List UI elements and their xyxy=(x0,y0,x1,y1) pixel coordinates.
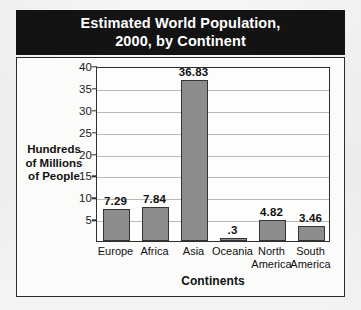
x-tick-label: Asia xyxy=(183,245,204,258)
bar-value-label: .3 xyxy=(228,224,238,236)
x-tick-label: North America xyxy=(251,245,291,270)
bar xyxy=(181,80,208,241)
bar xyxy=(220,238,247,241)
x-axis-title: Continents xyxy=(96,274,330,288)
bar xyxy=(103,209,130,241)
gridline xyxy=(97,199,329,200)
bar xyxy=(298,226,325,241)
gridline xyxy=(97,134,329,135)
chart-title: Estimated World Population, 2000, by Con… xyxy=(81,15,281,50)
x-tick-label: Oceania xyxy=(212,245,253,258)
x-tick-label: South America xyxy=(290,245,330,270)
y-tick-label: 30 xyxy=(58,105,92,117)
y-tick-label: 40 xyxy=(58,61,92,73)
y-tick-label: 35 xyxy=(58,83,92,95)
bar-value-label: 3.46 xyxy=(299,212,322,224)
chart-title-band: Estimated World Population, 2000, by Con… xyxy=(16,10,345,55)
y-tick-label: 5 xyxy=(58,214,92,226)
bar-value-label: 7.84 xyxy=(143,193,166,205)
plot-area xyxy=(96,67,330,242)
y-tick-label: 15 xyxy=(58,170,92,182)
y-tick-label: 10 xyxy=(58,192,92,204)
gridline xyxy=(97,177,329,178)
y-tick-label: 20 xyxy=(58,149,92,161)
x-axis-tick-labels: EuropeAfricaAsiaOceaniaNorth AmericaSout… xyxy=(96,245,330,277)
x-tick-label: Europe xyxy=(98,245,133,258)
bar xyxy=(259,220,286,241)
x-tick-label: Africa xyxy=(140,245,168,258)
y-axis-ticks: 510152025303540 xyxy=(56,67,92,242)
gridline xyxy=(97,156,329,157)
bar-value-label: 36.83 xyxy=(179,66,208,78)
bar-value-label: 4.82 xyxy=(260,206,283,218)
gridline xyxy=(97,221,329,222)
chart-figure: Estimated World Population, 2000, by Con… xyxy=(0,0,361,310)
bar-value-label: 7.29 xyxy=(104,195,127,207)
gridline xyxy=(97,90,329,91)
bar xyxy=(142,207,169,241)
y-tick-label: 25 xyxy=(58,127,92,139)
gridline xyxy=(97,112,329,113)
